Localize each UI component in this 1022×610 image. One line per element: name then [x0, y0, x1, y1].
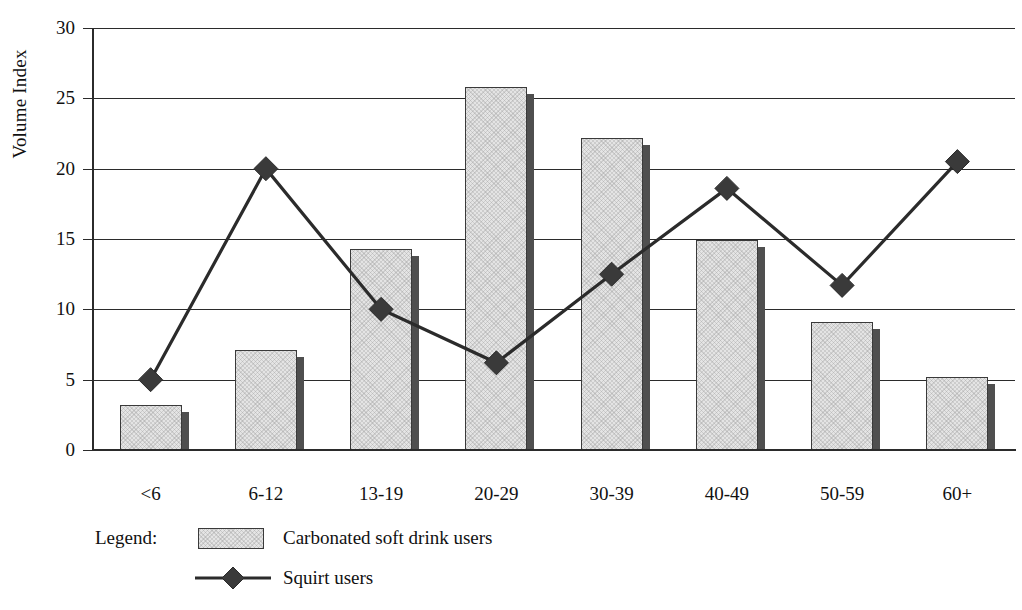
chart-figure: Volume Index 051015202530 <66-1213-1920-… — [0, 0, 1022, 610]
y-axis-line — [92, 28, 94, 450]
legend-title: Legend: — [95, 523, 157, 553]
x-axis-tick-label: 30-39 — [552, 483, 672, 505]
squirt-users-markers — [139, 150, 970, 392]
x-axis-tick-label: 20-29 — [436, 483, 556, 505]
y-axis-tick-label: 20 — [35, 159, 75, 178]
x-axis-tick-label: 13-19 — [321, 483, 441, 505]
line-marker-diamond[interactable] — [139, 368, 163, 392]
y-axis-tick-label: 25 — [35, 88, 75, 107]
legend-label-squirt-users: Squirt users — [283, 563, 373, 593]
squirt-users-line — [151, 162, 958, 380]
legend: Legend: Carbonated soft drink users Squi… — [0, 523, 1022, 603]
legend-label-carbonated-soft-drink-users: Carbonated soft drink users — [283, 523, 492, 553]
line-series-group — [93, 28, 1015, 450]
legend-line-diamond-svg — [195, 563, 271, 593]
x-axis-tick-label: 6-12 — [206, 483, 326, 505]
legend-swatch-icon — [198, 528, 264, 549]
legend-line-diamond-icon — [195, 563, 271, 593]
y-axis-tick-label: 30 — [35, 18, 75, 37]
y-axis-tick-label: 10 — [35, 299, 75, 318]
x-axis-line — [92, 449, 1016, 451]
y-axis-title: Volume Index — [3, 4, 37, 204]
x-axis-tick-label: <6 — [91, 483, 211, 505]
y-axis-tick-label: 0 — [35, 440, 75, 459]
x-axis-tick-label: 40-49 — [667, 483, 787, 505]
plot-area: 051015202530 <66-1213-1920-2930-3940-495… — [93, 28, 1015, 450]
y-axis-tick-label: 5 — [35, 370, 75, 389]
x-axis-tick-label: 60+ — [897, 483, 1017, 505]
y-axis-tick-label: 15 — [35, 229, 75, 248]
x-axis-tick-label: 50-59 — [782, 483, 902, 505]
